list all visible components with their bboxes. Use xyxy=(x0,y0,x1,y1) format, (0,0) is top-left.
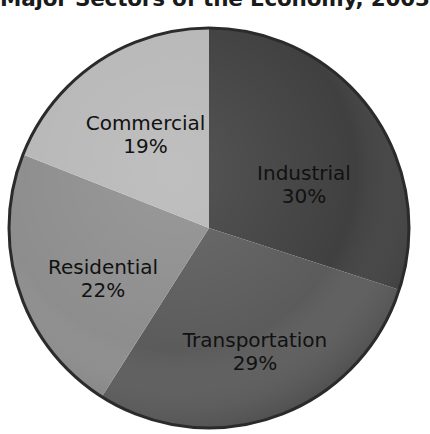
pie-label-industrial: Industrial 30% xyxy=(224,162,384,208)
pie-label-industrial-name: Industrial xyxy=(224,162,384,185)
pie-label-industrial-value: 30% xyxy=(224,185,384,208)
pie-label-commercial-value: 19% xyxy=(63,135,228,158)
pie-label-commercial-name: Commercial xyxy=(63,112,228,135)
pie-label-transportation-value: 29% xyxy=(155,352,355,375)
pie-label-transportation-name: Transportation xyxy=(155,329,355,352)
pie-label-commercial: Commercial 19% xyxy=(63,112,228,158)
pie-label-residential: Residential 22% xyxy=(23,256,183,302)
pie-chart-graphic: Industrial 30% Transportation 29% Reside… xyxy=(5,24,413,432)
chart-title: Major Sectors of the Economy, 2003 xyxy=(0,0,419,11)
pie-label-residential-value: 22% xyxy=(23,279,183,302)
pie-label-transportation: Transportation 29% xyxy=(155,329,355,375)
pie-label-residential-name: Residential xyxy=(23,256,183,279)
